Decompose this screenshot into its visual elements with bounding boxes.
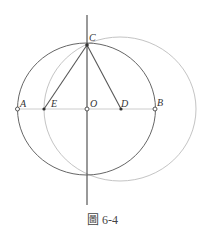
figure-caption: 圖 6-4 xyxy=(0,210,205,228)
label-c: C xyxy=(89,32,96,43)
point-c xyxy=(85,43,89,47)
point-o xyxy=(85,107,89,111)
geometry-figure: A E O D B C xyxy=(0,0,205,234)
label-e: E xyxy=(50,98,57,109)
label-b: B xyxy=(157,97,163,108)
label-d: D xyxy=(120,98,129,109)
label-o: O xyxy=(90,98,97,109)
point-e xyxy=(42,107,45,110)
label-a: A xyxy=(19,98,27,109)
point-a xyxy=(16,107,20,111)
